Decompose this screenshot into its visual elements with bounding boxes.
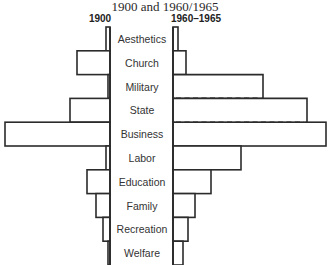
bar-1900-education <box>87 170 110 194</box>
bar-1900-family <box>96 194 110 218</box>
category-label-business: Business <box>121 128 164 140</box>
category-label-family: Family <box>127 200 159 212</box>
category-label-recreation: Recreation <box>117 223 168 235</box>
category-label-church: Church <box>125 57 159 69</box>
bar-1900-state <box>70 98 110 122</box>
bar-1900-business <box>5 122 110 146</box>
bar-1960-labor <box>173 146 241 170</box>
category-label-military: Military <box>125 81 159 93</box>
category-label-aesthetics: Aesthetics <box>118 33 166 45</box>
bar-1960-state <box>173 98 307 122</box>
bar-1960-recreation <box>173 217 188 241</box>
institutional-prominence-chart: 1900 and 1960/1965 1900 1960–1965 Aesthe… <box>0 0 329 265</box>
category-label-welfare: Welfare <box>124 247 160 259</box>
category-label-state: State <box>130 104 155 116</box>
bar-1960-family <box>173 194 195 218</box>
bar-1960-military <box>173 75 263 99</box>
right-column-heading: 1960–1965 <box>171 13 221 24</box>
bar-1960-church <box>173 51 186 75</box>
bar-1900-church <box>77 51 110 75</box>
chart-title: 1900 and 1960/1965 <box>112 0 219 14</box>
category-labels: AestheticsChurchMilitaryStateBusinessLab… <box>117 33 168 259</box>
bar-1900-recreation <box>103 217 110 241</box>
category-label-education: Education <box>119 176 166 188</box>
left-column-heading: 1900 <box>89 13 112 24</box>
category-label-labor: Labor <box>129 152 156 164</box>
bar-1960-education <box>173 170 211 194</box>
bar-1960-welfare <box>173 241 183 265</box>
bar-1960-business <box>173 122 326 146</box>
